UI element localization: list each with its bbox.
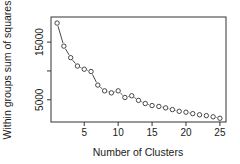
- x-tick-label: 25: [214, 127, 226, 138]
- data-point: [143, 101, 147, 105]
- data-point: [55, 21, 59, 25]
- series-segment: [100, 87, 102, 89]
- data-point: [211, 115, 215, 119]
- data-point: [96, 83, 100, 87]
- y-axis: 500015000: [34, 28, 51, 111]
- x-axis-label: Number of Clusters: [93, 146, 183, 158]
- data-point: [75, 64, 79, 68]
- x-tick-label: 15: [147, 127, 159, 138]
- data-point: [123, 95, 127, 99]
- y-axis-label: Within groups sum of squares: [1, 1, 13, 140]
- series-points: [55, 21, 222, 121]
- data-point: [130, 94, 134, 98]
- series-segment: [92, 74, 96, 82]
- y-tick-label: 15000: [34, 28, 45, 56]
- plot-frame: [51, 17, 226, 122]
- data-point: [89, 69, 93, 73]
- series-segment: [66, 49, 70, 55]
- x-tick-label: 10: [113, 127, 125, 138]
- data-point: [109, 91, 113, 95]
- data-point: [177, 109, 181, 113]
- data-point: [82, 67, 86, 71]
- elbow-chart: 510152025 500015000 Number of Clusters W…: [0, 0, 240, 164]
- data-point: [197, 113, 201, 117]
- data-point: [157, 104, 161, 108]
- data-point: [150, 103, 154, 107]
- data-point: [102, 89, 106, 93]
- data-point: [68, 55, 72, 59]
- x-tick-label: 5: [81, 127, 87, 138]
- series-segment: [134, 98, 135, 99]
- data-point: [204, 113, 208, 117]
- data-point: [191, 111, 195, 115]
- data-point: [218, 116, 222, 120]
- series-line: [58, 26, 217, 117]
- y-tick-label: 5000: [34, 88, 45, 111]
- series-segment: [58, 26, 63, 43]
- data-point: [184, 110, 188, 114]
- data-point: [163, 106, 167, 110]
- x-axis: 510152025: [81, 122, 225, 138]
- data-point: [170, 107, 174, 111]
- data-point: [136, 98, 140, 102]
- series-segment: [120, 93, 122, 95]
- series-segment: [73, 60, 76, 63]
- data-point: [62, 44, 66, 48]
- data-point: [116, 89, 120, 93]
- x-tick-label: 20: [180, 127, 192, 138]
